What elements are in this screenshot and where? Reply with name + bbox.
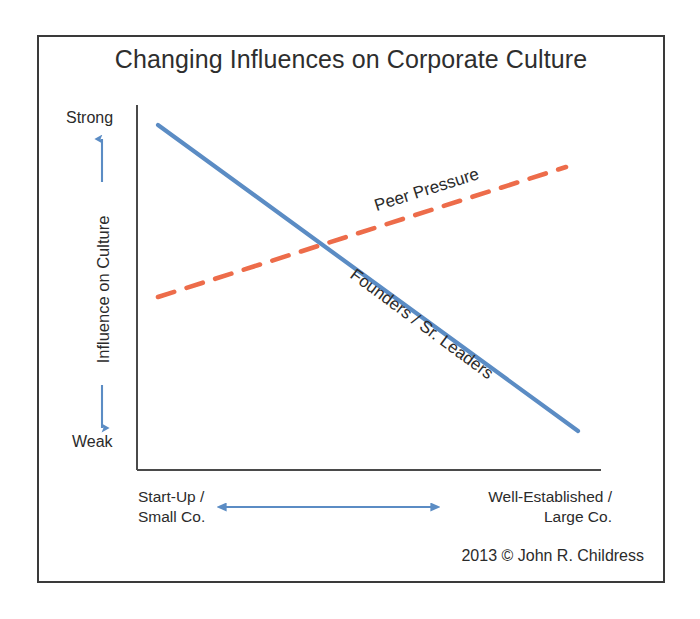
y-axis-title: Influence on Culture <box>94 180 113 400</box>
x-axis-left-label-line2: Small Co. <box>138 507 205 527</box>
figure-canvas: Changing Influences on Corporate Culture <box>0 0 700 619</box>
copyright-credit: 2013 © John R. Childress <box>300 547 644 565</box>
x-axis-left-label-line1: Start-Up / <box>138 487 205 507</box>
y-axis-bottom-label: Weak <box>72 432 113 451</box>
x-axis-right-label-line1: Well-Established / <box>452 487 612 507</box>
x-axis-left-label: Start-Up / Small Co. <box>138 487 205 528</box>
page-title: Changing Influences on Corporate Culture <box>37 44 665 75</box>
y-axis-top-label: Strong <box>66 108 113 127</box>
x-axis-right-label-line2: Large Co. <box>452 507 612 527</box>
x-axis-right-label: Well-Established / Large Co. <box>452 487 612 528</box>
